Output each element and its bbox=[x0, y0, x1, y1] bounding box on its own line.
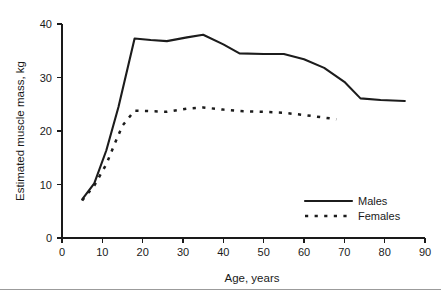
x-tick-label: 40 bbox=[217, 246, 229, 258]
y-axis-tick-labels: 010203040 bbox=[40, 18, 52, 244]
x-tick-label: 70 bbox=[338, 246, 350, 258]
x-tick-label: 0 bbox=[59, 246, 65, 258]
line-chart: 010203040 0102030405060708090 Estimated … bbox=[0, 0, 441, 295]
y-tick-label: 30 bbox=[40, 72, 52, 84]
y-tick-label: 0 bbox=[46, 232, 52, 244]
x-tick-label: 20 bbox=[137, 246, 149, 258]
y-tick-label: 20 bbox=[40, 125, 52, 137]
chart-figure: 010203040 0102030405060708090 Estimated … bbox=[0, 0, 441, 295]
y-tick-label: 10 bbox=[40, 179, 52, 191]
x-tick-label: 10 bbox=[96, 246, 108, 258]
chart-legend: Males Females bbox=[305, 195, 401, 222]
footer-divider bbox=[0, 289, 441, 290]
x-tick-label: 50 bbox=[258, 246, 270, 258]
series-line-females bbox=[82, 107, 336, 200]
y-axis-title: Estimated muscle mass, kg bbox=[14, 61, 26, 201]
x-tick-label: 90 bbox=[419, 246, 431, 258]
x-axis-tick-labels: 0102030405060708090 bbox=[59, 246, 431, 258]
legend-label-females: Females bbox=[358, 210, 401, 222]
x-tick-label: 30 bbox=[177, 246, 189, 258]
y-tick-label: 40 bbox=[40, 18, 52, 30]
x-tick-label: 80 bbox=[379, 246, 391, 258]
x-axis-title: Age, years bbox=[225, 272, 280, 284]
legend-label-males: Males bbox=[358, 195, 388, 207]
x-tick-label: 60 bbox=[298, 246, 310, 258]
